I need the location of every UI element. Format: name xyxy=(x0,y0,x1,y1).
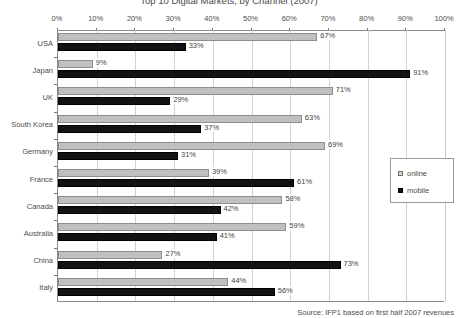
y-axis-label-uk: UK xyxy=(0,93,53,102)
legend-item-online[interactable]: online xyxy=(398,168,427,178)
bar-online[interactable] xyxy=(58,87,333,95)
bar-mobile[interactable] xyxy=(58,97,170,105)
bar-online[interactable] xyxy=(58,278,228,286)
y-axis-label-canada: Canada xyxy=(0,202,53,211)
chart-category-row: 39%61% xyxy=(58,166,444,193)
chart-category-row: 27%73% xyxy=(58,248,444,275)
bar-value-label: 59% xyxy=(288,221,305,230)
x-axis-tick-label: 60% xyxy=(282,14,297,23)
x-axis-tick-label: 70% xyxy=(320,14,335,23)
x-axis-tick-label: 40% xyxy=(204,14,219,23)
bar-value-label: 42% xyxy=(223,204,240,213)
bar-value-label: 61% xyxy=(296,177,313,186)
x-axis-tick-label: 0% xyxy=(52,14,63,23)
bar-online[interactable] xyxy=(58,60,93,68)
bar-online[interactable] xyxy=(58,115,302,123)
bar-mobile[interactable] xyxy=(58,261,341,269)
legend-label-mobile: mobile xyxy=(407,186,429,195)
bar-value-label: 33% xyxy=(188,41,205,50)
bar-online[interactable] xyxy=(58,33,317,41)
bar-value-label: 73% xyxy=(343,259,360,268)
y-axis-label-china: China xyxy=(0,256,53,265)
bar-value-label: 37% xyxy=(203,123,220,132)
bar-mobile[interactable] xyxy=(58,206,221,214)
bar-value-label: 39% xyxy=(211,167,228,176)
bar-value-label: 44% xyxy=(230,276,247,285)
chart-category-row: 69%31% xyxy=(58,139,444,166)
y-axis-label-germany: Germany xyxy=(0,147,53,156)
source-note: Source: IFP1 based on first half 2007 re… xyxy=(297,308,454,317)
bar-mobile[interactable] xyxy=(58,179,294,187)
y-axis-label-australia: Australia xyxy=(0,229,53,238)
plot-area: 67%33%9%91%71%29%63%37%69%31%39%61%58%42… xyxy=(57,30,444,302)
bar-online[interactable] xyxy=(58,169,209,177)
legend-item-mobile[interactable]: mobile xyxy=(398,185,429,195)
chart-category-row: 44%56% xyxy=(58,275,444,302)
x-axis-tick-label: 20% xyxy=(127,14,142,23)
chart-category-row: 63%37% xyxy=(58,112,444,139)
y-axis-label-japan: Japan xyxy=(0,66,53,75)
bar-mobile[interactable] xyxy=(58,288,275,296)
bar-value-label: 31% xyxy=(180,150,197,159)
bar-online[interactable] xyxy=(58,196,282,204)
chart-category-row: 58%42% xyxy=(58,193,444,220)
x-axis-tick-label: 90% xyxy=(398,14,413,23)
x-axis-tick-label: 80% xyxy=(359,14,374,23)
x-axis-tick-label: 30% xyxy=(166,14,181,23)
bar-mobile[interactable] xyxy=(58,125,201,133)
bar-value-label: 56% xyxy=(277,286,294,295)
bar-value-label: 58% xyxy=(284,194,301,203)
bar-value-label: 27% xyxy=(164,249,181,258)
y-axis-label-usa: USA xyxy=(0,39,53,48)
chart-category-row: 59%41% xyxy=(58,220,444,247)
bar-value-label: 69% xyxy=(327,140,344,149)
bar-value-label: 67% xyxy=(319,31,336,40)
bar-value-label: 29% xyxy=(172,95,189,104)
chart-category-row: 71%29% xyxy=(58,84,444,111)
y-axis-label-italy: Italy xyxy=(0,283,53,292)
x-axis-tick-label: 100% xyxy=(434,14,453,23)
bar-value-label: 63% xyxy=(304,113,321,122)
chart-category-row: 9%91% xyxy=(58,57,444,84)
y-axis-label-south-korea: South Korea xyxy=(0,120,53,129)
bar-mobile[interactable] xyxy=(58,233,217,241)
chart-title: Top 10 Digital Markets, by Channel (2007… xyxy=(0,0,458,6)
bar-online[interactable] xyxy=(58,251,162,259)
bar-value-label: 91% xyxy=(412,68,429,77)
bar-value-label: 71% xyxy=(335,85,352,94)
bar-mobile[interactable] xyxy=(58,43,186,51)
x-axis-tick-label: 50% xyxy=(243,14,258,23)
mobile-swatch-icon xyxy=(398,188,403,193)
bar-online[interactable] xyxy=(58,223,286,231)
bar-mobile[interactable] xyxy=(58,152,178,160)
bar-mobile[interactable] xyxy=(58,70,410,78)
chart-legend[interactable]: online mobile xyxy=(390,158,454,203)
x-axis-tick-label: 10% xyxy=(88,14,103,23)
online-swatch-icon xyxy=(398,171,403,176)
legend-label-online: online xyxy=(407,169,427,178)
bar-online[interactable] xyxy=(58,142,325,150)
y-axis-label-france: France xyxy=(0,175,53,184)
bar-value-label: 41% xyxy=(219,231,236,240)
chart-category-row: 67%33% xyxy=(58,30,444,57)
bar-value-label: 9% xyxy=(95,58,108,67)
